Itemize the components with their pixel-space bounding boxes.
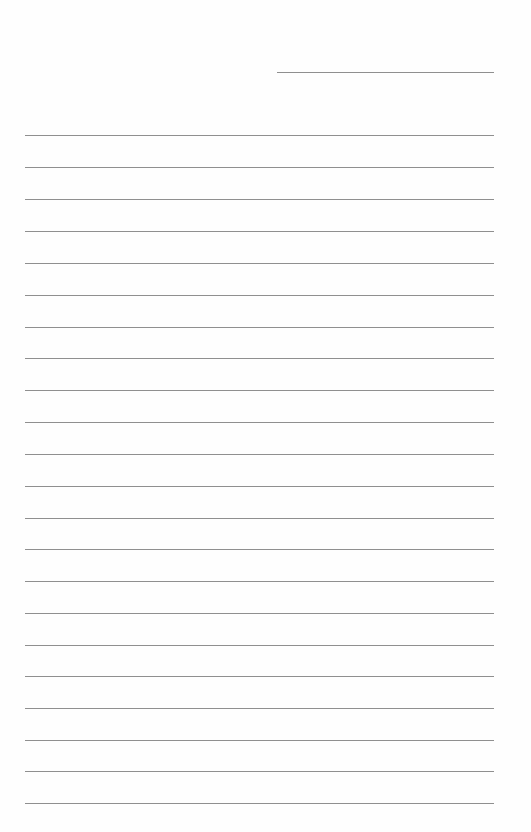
ruled-line xyxy=(25,358,494,359)
ruled-line xyxy=(25,327,494,328)
ruled-line xyxy=(25,231,494,232)
ruled-line xyxy=(25,708,494,709)
ruled-line xyxy=(25,613,494,614)
ruled-line xyxy=(25,454,494,455)
ruled-line xyxy=(25,167,494,168)
ruled-line xyxy=(25,518,494,519)
header-signature-line xyxy=(277,72,494,73)
ruled-line xyxy=(25,199,494,200)
ruled-line xyxy=(25,135,494,136)
ruled-line xyxy=(25,676,494,677)
ruled-line xyxy=(25,771,494,772)
ruled-line xyxy=(25,581,494,582)
ruled-line xyxy=(25,486,494,487)
ruled-line xyxy=(25,803,494,804)
ruled-line xyxy=(25,390,494,391)
ruled-line xyxy=(25,645,494,646)
ruled-line xyxy=(25,422,494,423)
ruled-line xyxy=(25,549,494,550)
ruled-line xyxy=(25,740,494,741)
ruled-line xyxy=(25,263,494,264)
ruled-line xyxy=(25,295,494,296)
lined-paper-page xyxy=(0,0,531,832)
